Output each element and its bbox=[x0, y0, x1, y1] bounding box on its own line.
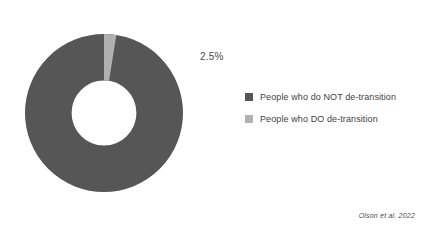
slice-label-major: 97.5% bbox=[78, 197, 107, 208]
legend-swatch-icon bbox=[245, 93, 253, 101]
slice-label-minor: 2.5% bbox=[200, 51, 224, 62]
chart-legend: People who do NOT de-transition People w… bbox=[245, 92, 396, 124]
source-citation: Olson et al. 2022 bbox=[359, 212, 415, 219]
legend-item-do-detransition[interactable]: People who DO de-transition bbox=[245, 114, 396, 124]
legend-item-label: People who do NOT de-transition bbox=[260, 92, 396, 102]
legend-swatch-icon bbox=[245, 115, 253, 123]
legend-item-label: People who DO de-transition bbox=[260, 114, 378, 124]
legend-item-not-detransition[interactable]: People who do NOT de-transition bbox=[245, 92, 396, 102]
donut-svg bbox=[25, 34, 183, 192]
donut-chart-figure: 97.5% 2.5% People who do NOT de-transiti… bbox=[0, 0, 425, 228]
donut-chart-graphic: 97.5% 2.5% bbox=[25, 34, 183, 192]
